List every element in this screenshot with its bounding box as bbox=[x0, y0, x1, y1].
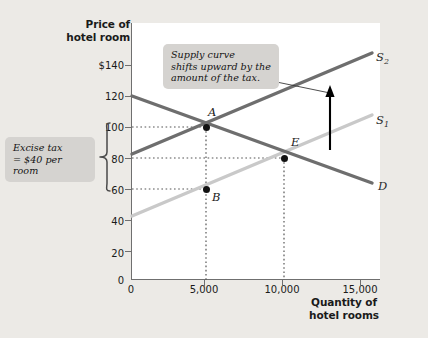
y-tick-mark-120 bbox=[125, 96, 132, 97]
y-tick-mark-60 bbox=[125, 189, 132, 190]
x-axis-title: Quantity of hotel rooms bbox=[296, 296, 392, 321]
y-tick-mark-100 bbox=[125, 127, 132, 128]
supply-shift-line3: amount of the tax. bbox=[171, 72, 272, 84]
y-axis-title-line1: Price of bbox=[64, 18, 130, 31]
point-b-dot bbox=[203, 186, 210, 193]
point-e-dot bbox=[281, 155, 288, 162]
excise-tax-line1: Excise tax bbox=[13, 142, 88, 154]
y-axis-title-line2: hotel room bbox=[64, 31, 130, 44]
y-tick-mark-80 bbox=[125, 158, 132, 159]
curve-label-d: D bbox=[378, 179, 387, 193]
y-tick-label-40: 40 bbox=[72, 216, 124, 227]
y-tick-label-140: $140 bbox=[72, 60, 124, 71]
x-tick-label-0: 0 bbox=[101, 284, 161, 295]
point-a-dot bbox=[203, 124, 210, 131]
excise-tax-line2: = $40 per room bbox=[13, 154, 88, 177]
y-tick-label-20: 20 bbox=[72, 248, 124, 259]
point-e-label: E bbox=[291, 135, 299, 149]
supply-shift-annotation: Supply curve shifts upward by the amount… bbox=[163, 44, 279, 89]
x-axis-title-line1: Quantity of bbox=[296, 296, 392, 309]
curve-label-s1-text: S bbox=[376, 113, 384, 127]
y-tick-label-120: 120 bbox=[72, 91, 124, 102]
curve-label-s1-sub: 1 bbox=[384, 120, 389, 129]
excise-tax-brace bbox=[98, 122, 112, 192]
supply-shift-line2: shifts upward by the bbox=[171, 61, 272, 73]
y-tick-mark-140 bbox=[125, 65, 132, 66]
point-b-label: B bbox=[212, 190, 220, 204]
y-axis-title: Price of hotel room bbox=[64, 18, 130, 43]
y-tick-mark-40 bbox=[125, 220, 132, 221]
excise-tax-chart: Price of hotel room Quantity of hotel ro… bbox=[0, 0, 428, 338]
curve-label-s1: S1 bbox=[376, 113, 389, 129]
x-tick-mark-10000 bbox=[282, 280, 283, 287]
x-axis-title-line2: hotel rooms bbox=[296, 309, 392, 322]
point-a-label: A bbox=[208, 105, 216, 119]
curve-label-s2-text: S bbox=[376, 50, 384, 64]
excise-tax-annotation: Excise tax = $40 per room bbox=[5, 137, 95, 182]
curve-label-s2-sub: 2 bbox=[384, 57, 389, 66]
supply-shift-line1: Supply curve bbox=[171, 49, 272, 61]
curve-label-s2: S2 bbox=[376, 50, 389, 66]
x-tick-mark-5000 bbox=[204, 280, 205, 287]
x-tick-mark-15000 bbox=[360, 280, 361, 287]
y-tick-mark-20 bbox=[125, 251, 132, 252]
